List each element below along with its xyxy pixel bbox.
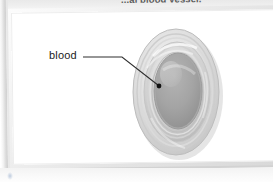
screenshot-root: ...al blood vessel. bbox=[0, 0, 273, 182]
blood-vessel-illustration bbox=[127, 22, 225, 162]
label-blood: blood bbox=[49, 49, 77, 61]
page-bottom-speck bbox=[7, 172, 13, 180]
page-bottom-strip bbox=[0, 168, 273, 182]
